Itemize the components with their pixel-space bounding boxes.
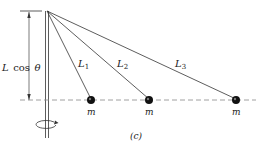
mass-label-1: m bbox=[87, 107, 96, 117]
string-l2 bbox=[47, 11, 149, 99]
string-l1 bbox=[47, 11, 91, 99]
mass-label-2: m bbox=[145, 107, 154, 117]
mass-ball-2 bbox=[145, 96, 153, 104]
string-l3 bbox=[47, 11, 236, 99]
conical-pendulum-diagram: L cos θ L1 L2 L3 m m m (c) bbox=[0, 0, 256, 151]
string-label-l2: L2 bbox=[116, 58, 128, 71]
mass-ball-1 bbox=[87, 96, 95, 104]
height-dimension-arrow bbox=[27, 12, 30, 100]
string-label-l1: L1 bbox=[77, 58, 89, 71]
string-label-l3: L3 bbox=[174, 58, 186, 71]
panel-label: (c) bbox=[130, 131, 143, 141]
mass-label-3: m bbox=[232, 107, 241, 117]
rotation-arrow-icon bbox=[36, 120, 58, 128]
rotating-pole bbox=[46, 11, 49, 138]
mass-ball-3 bbox=[232, 96, 240, 104]
height-label: L cos θ bbox=[1, 62, 40, 73]
